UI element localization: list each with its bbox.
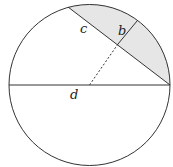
perpendicular-dashed-line — [90, 44, 119, 85]
circle-diagram: c b d — [0, 0, 173, 167]
label-b: b — [118, 24, 126, 37]
label-c: c — [80, 22, 87, 35]
label-d: d — [70, 88, 78, 101]
